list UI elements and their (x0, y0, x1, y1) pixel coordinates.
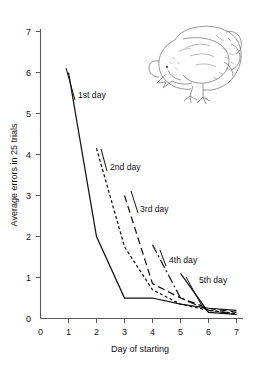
y-tick-label-4: 4 (26, 150, 31, 160)
series-annotation-5th-day: 5th day (199, 275, 228, 285)
x-tick-label-1: 1 (66, 327, 71, 337)
leader-2nd-day (101, 149, 107, 171)
y-tick-label-5: 5 (26, 109, 31, 119)
series-annotations: 1st day 2nd day 3rd day 4th day 5th day (78, 90, 228, 285)
y-tick-label-6: 6 (26, 68, 31, 78)
y-tick-label-2: 2 (26, 232, 31, 242)
chart-canvas: 7 6 5 4 3 2 1 0 Average errors in 25 tri… (0, 0, 271, 365)
series-leaders (66, 68, 202, 306)
figure-panel: 7 6 5 4 3 2 1 0 Average errors in 25 tri… (0, 0, 271, 365)
x-tick-label-6: 6 (206, 327, 211, 337)
y-axis: 7 6 5 4 3 2 1 0 Average errors in 25 tri… (9, 27, 41, 324)
series-annotation-4th-day: 4th day (169, 255, 198, 265)
x-tick-label-4: 4 (150, 327, 155, 337)
x-axis-title: Day of starting (111, 344, 169, 354)
y-tick-label-1: 1 (26, 273, 31, 283)
y-tick-label-3: 3 (26, 191, 31, 201)
x-tick-label-0: 0 (38, 327, 43, 337)
pecking-chick-illustration (149, 26, 241, 104)
series-annotation-3rd-day: 3rd day (140, 204, 169, 214)
leader-3rd-day (131, 191, 138, 213)
y-tick-label-0: 0 (26, 314, 31, 324)
series-annotation-2nd-day: 2nd day (110, 162, 141, 172)
y-tick-label-7: 7 (26, 27, 31, 37)
x-tick-label-3: 3 (122, 327, 127, 337)
x-tick-label-5: 5 (178, 327, 183, 337)
y-axis-title: Average errors in 25 trials (9, 123, 19, 226)
series-line-2nd-day (97, 148, 237, 313)
x-axis: 0 1 2 3 4 5 6 7 Day of starting (38, 319, 243, 355)
x-tick-label-2: 2 (94, 327, 99, 337)
series-annotation-1st-day: 1st day (78, 90, 106, 100)
x-tick-label-7: 7 (234, 327, 239, 337)
leader-1st-day (66, 68, 75, 100)
